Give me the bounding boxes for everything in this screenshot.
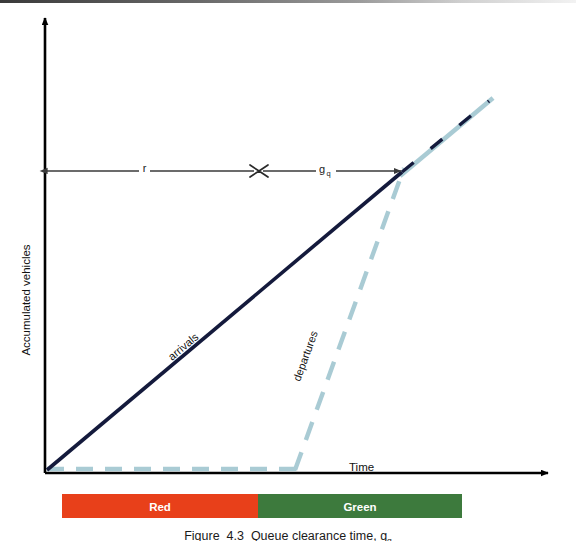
figure-container: Accumulated vehicles Time arrivals depar…: [0, 0, 576, 541]
phase-label-green: Green: [343, 501, 376, 513]
arrivals-solid-segment: [47, 172, 402, 470]
caption-prefix: Figure: [184, 529, 219, 541]
green-interval-label: g: [319, 163, 325, 175]
y-axis-label: Accumulated vehicles: [20, 244, 32, 355]
caption-number: 4.3: [227, 529, 244, 541]
x-axis-label: Time: [349, 461, 374, 473]
departures-label: departures: [291, 329, 320, 383]
caption-symbol-subscript: q: [387, 536, 392, 541]
caption-title: Queue clearance time,: [251, 529, 377, 541]
dimension-annotation-group: r g q: [47, 161, 401, 178]
green-interval-label-subscript: q: [327, 169, 331, 178]
departures-rising-segment: [295, 168, 404, 470]
figure-caption-strip: Figure 4.3 Queue clearance time, gq: [0, 529, 576, 541]
queue-clearance-chart: Accumulated vehicles Time arrivals depar…: [0, 0, 576, 541]
signal-phase-bar: Red Green: [62, 494, 462, 518]
figure-caption: Figure 4.3 Queue clearance time, gq: [0, 529, 576, 541]
red-interval-label: r: [143, 162, 147, 174]
axis-group: [45, 18, 548, 473]
phase-label-red: Red: [149, 501, 171, 513]
